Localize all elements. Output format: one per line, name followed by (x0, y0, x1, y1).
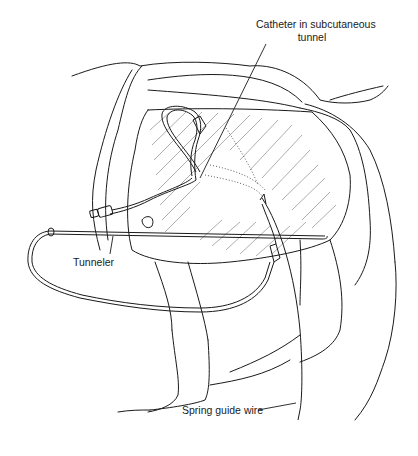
leader-tunneler (110, 236, 113, 254)
label-tunneler: Tunneler (73, 256, 114, 269)
catheter-loop (110, 106, 201, 214)
illustration-drawing (0, 0, 418, 456)
label-spring-guide-wire: Spring guide wire (182, 404, 263, 417)
label-catheter-line1: Catheter in subcutaneous (256, 18, 368, 31)
medical-illustration: Catheter in subcutaneous tunnel Tunneler… (0, 0, 418, 456)
leader-wire (258, 403, 296, 410)
tunneler-loop (28, 231, 274, 312)
label-catheter-in-subcutaneous-tunnel: Catheter in subcutaneous tunnel (256, 18, 368, 44)
label-catheter-line2: tunnel (256, 31, 368, 44)
